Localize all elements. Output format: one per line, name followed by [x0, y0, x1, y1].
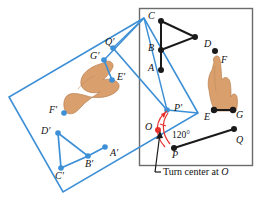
label-D-prime: D′	[41, 126, 50, 136]
point-Ep	[109, 77, 115, 83]
point-D2	[212, 48, 218, 54]
label-D: D	[204, 39, 211, 49]
label-B-prime: B′	[85, 159, 93, 169]
point-E	[211, 107, 217, 113]
label-E-prime: E′	[117, 72, 125, 82]
label-P: P	[172, 150, 178, 160]
hand-turned	[64, 61, 119, 114]
triangle-turned	[58, 133, 88, 168]
label-Q: Q	[236, 135, 243, 145]
label-F-prime: F′	[49, 105, 57, 115]
label-G-prime: G′	[90, 51, 99, 61]
caption-symbol-O: O	[221, 166, 228, 177]
label-Q-prime: Q′	[105, 37, 114, 47]
point-Ap	[102, 144, 108, 150]
angle-label-120: 120°	[172, 131, 190, 141]
label-C-prime: C′	[55, 171, 64, 181]
label-P-prime: P′	[174, 103, 182, 113]
label-G: G	[236, 110, 243, 120]
segment-BpAp	[88, 147, 105, 156]
point-Fp	[61, 110, 67, 116]
point-A	[158, 67, 164, 73]
label-C: C	[148, 11, 155, 21]
point-Dp	[55, 130, 61, 136]
label-E: E	[204, 112, 210, 122]
label-O: O	[145, 122, 152, 132]
point-D	[192, 34, 198, 40]
label-B: B	[148, 43, 154, 53]
point-B	[158, 47, 164, 53]
label-A: A	[148, 63, 154, 73]
caption-turn-center: Turn center at O	[163, 167, 228, 177]
label-F: F	[221, 55, 227, 65]
point-C	[158, 18, 164, 24]
rotation-geometry-figure: C B A D F E G Q P O Q′ G′ E′ F′ D′ C′ B′…	[0, 0, 260, 200]
label-A-prime: A′	[110, 148, 118, 158]
point-Gp	[101, 57, 107, 63]
caption-text: Turn center at	[163, 166, 221, 177]
point-Q	[231, 126, 237, 132]
